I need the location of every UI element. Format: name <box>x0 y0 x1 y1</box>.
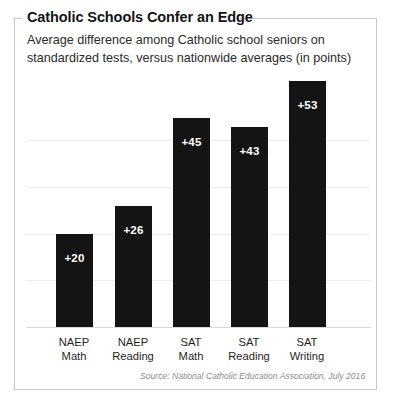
category-label-sat-writing: SAT Writing <box>275 336 339 363</box>
source-note: Source: National Catholic Education Asso… <box>140 371 365 381</box>
axis-baseline <box>26 327 371 328</box>
category-label-sat-math: SAT Math <box>159 336 223 363</box>
bar-value-label: +53 <box>289 99 326 111</box>
bar-value-label: +26 <box>115 224 152 236</box>
category-label-line1: SAT <box>181 336 202 348</box>
category-label-sat-reading: SAT Reading <box>217 336 281 363</box>
category-label-line2: Reading <box>101 350 165 364</box>
category-label-line1: SAT <box>239 336 260 348</box>
bar-value-label: +45 <box>173 136 210 148</box>
category-label-naep-math: NAEP Math <box>42 336 106 363</box>
bar-naep-math <box>56 234 93 327</box>
category-label-line2: Math <box>159 350 223 364</box>
bar-sat-writing <box>289 81 326 327</box>
bar-sat-reading <box>231 127 268 327</box>
bar-sat-math <box>173 118 210 327</box>
bar-chart-plot-area: +20 +26 +45 +43 +53 NAEP Math NAEP Readi… <box>0 0 394 410</box>
category-label-line1: NAEP <box>118 336 148 348</box>
category-label-line1: NAEP <box>59 336 89 348</box>
bar-value-label: +20 <box>56 252 93 264</box>
category-label-line2: Reading <box>217 350 281 364</box>
category-label-line1: SAT <box>297 336 318 348</box>
category-label-line2: Math <box>42 350 106 364</box>
bar-value-label: +43 <box>231 145 268 157</box>
category-label-line2: Writing <box>275 350 339 364</box>
category-label-naep-reading: NAEP Reading <box>101 336 165 363</box>
